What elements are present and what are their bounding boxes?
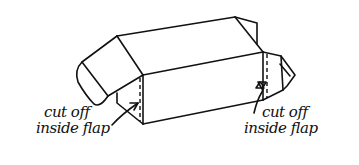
box-drawing	[0, 0, 359, 165]
left-label-line2: inside flap	[36, 120, 110, 136]
right-cut-off-label: cut off inside flap	[244, 104, 318, 136]
left-cut-off-label: cut off inside flap	[36, 104, 110, 136]
left-end-flap	[77, 36, 143, 105]
left-label-line1: cut off	[36, 104, 110, 120]
box-body	[117, 17, 263, 124]
box-diagram: cut off inside flap cut off inside flap	[0, 0, 359, 165]
right-label-line1: cut off	[244, 104, 318, 120]
left-arrow-icon	[112, 103, 138, 125]
right-end-flap	[235, 17, 295, 100]
right-label-line2: inside flap	[244, 120, 318, 136]
